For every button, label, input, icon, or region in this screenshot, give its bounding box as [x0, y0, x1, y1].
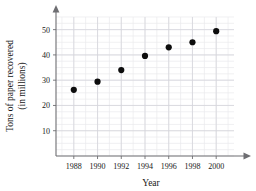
data-point [189, 39, 195, 45]
y-tick-label: 20 [42, 101, 50, 110]
y-tick-label: 30 [42, 76, 50, 85]
y-axis-title-line2: (in millions) [17, 62, 28, 109]
x-tick-label: 1988 [66, 162, 82, 171]
chart-canvas: 1020304050 1988199019921994199619982000 … [0, 0, 256, 191]
y-axis-tick-labels: 1020304050 [42, 26, 50, 136]
x-tick-label: 1992 [113, 162, 129, 171]
data-point [118, 67, 124, 73]
x-tick-label: 1998 [184, 162, 200, 171]
data-point [213, 28, 219, 34]
x-tick-label: 1996 [161, 162, 177, 171]
x-axis-tick-labels: 1988199019921994199619982000 [66, 162, 224, 171]
data-point [71, 87, 77, 93]
data-point [94, 79, 100, 85]
scatter-plot-figure: 1020304050 1988199019921994199619982000 … [0, 0, 256, 191]
data-point [166, 44, 172, 50]
data-point [142, 53, 148, 59]
x-axis-title: Year [142, 178, 160, 188]
y-tick-label: 40 [42, 51, 50, 60]
x-tick-label: 2000 [208, 162, 224, 171]
x-tick-label: 1994 [137, 162, 153, 171]
y-tick-label: 10 [42, 127, 50, 136]
y-axis-title-line1: Tons of paper recovered [5, 40, 15, 132]
y-tick-label: 50 [42, 26, 50, 35]
x-tick-label: 1990 [90, 162, 106, 171]
